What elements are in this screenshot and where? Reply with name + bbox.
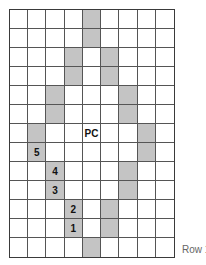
grid-cell	[46, 48, 64, 67]
shaded-cell	[65, 67, 83, 86]
grid-cell	[28, 238, 46, 257]
grid-cell-5: 5	[28, 143, 46, 162]
shaded-cell	[65, 48, 83, 67]
grid-cell	[10, 86, 28, 105]
grid-cell	[101, 105, 119, 124]
grid-cell	[46, 143, 64, 162]
shaded-cell	[83, 29, 101, 48]
grid-cell	[28, 200, 46, 219]
grid-cell	[28, 10, 46, 29]
grid-cell	[138, 200, 156, 219]
grid-cell	[10, 124, 28, 143]
grid-cell	[65, 86, 83, 105]
grid-cell	[101, 162, 119, 181]
grid-cell	[28, 67, 46, 86]
grid-cell	[10, 105, 28, 124]
shaded-cell	[46, 105, 64, 124]
grid-cell	[119, 10, 137, 29]
grid-cell	[156, 48, 174, 67]
grid-cell	[101, 29, 119, 48]
grid-cell	[46, 219, 64, 238]
grid-cell	[156, 124, 174, 143]
grid-cell	[156, 29, 174, 48]
grid-cell	[138, 10, 156, 29]
grid-cell	[10, 48, 28, 67]
grid-cell	[119, 48, 137, 67]
grid-cell	[46, 10, 64, 29]
grid-cell	[138, 181, 156, 200]
grid-cell	[46, 67, 64, 86]
grid-cell	[65, 124, 83, 143]
grid-cell	[156, 219, 174, 238]
grid-cell-2: 2	[65, 200, 83, 219]
grid-cell	[10, 238, 28, 257]
grid-cell	[83, 105, 101, 124]
seating-grid: PC54321	[9, 9, 175, 258]
grid-cell	[28, 181, 46, 200]
grid-cell	[119, 143, 137, 162]
grid-cell	[156, 181, 174, 200]
shaded-cell	[101, 67, 119, 86]
grid-cell	[65, 29, 83, 48]
grid-cell	[83, 86, 101, 105]
grid-cell	[83, 219, 101, 238]
grid-cell	[65, 181, 83, 200]
grid-cell	[65, 105, 83, 124]
grid-cell	[156, 238, 174, 257]
grid-cell	[10, 67, 28, 86]
grid-cell	[65, 10, 83, 29]
grid-cell	[138, 67, 156, 86]
grid-cell	[83, 48, 101, 67]
grid-cell	[10, 143, 28, 162]
grid-cell	[119, 238, 137, 257]
grid-cell	[138, 219, 156, 238]
grid-cell	[46, 124, 64, 143]
grid-cell	[119, 219, 137, 238]
grid-cell	[10, 10, 28, 29]
grid-cell	[46, 200, 64, 219]
grid-cell-3: 3	[46, 181, 64, 200]
shaded-cell	[119, 162, 137, 181]
shaded-cell	[138, 124, 156, 143]
grid-cell	[10, 29, 28, 48]
grid-cell	[101, 181, 119, 200]
row-1-label: Row 1	[182, 244, 206, 255]
grid-cell	[119, 124, 137, 143]
grid-cell	[101, 124, 119, 143]
shaded-cell	[28, 124, 46, 143]
grid-cell	[138, 86, 156, 105]
grid-cell-pc: PC	[83, 124, 101, 143]
grid-cell	[46, 29, 64, 48]
shaded-cell	[101, 48, 119, 67]
grid-cell	[156, 162, 174, 181]
grid-cell	[156, 86, 174, 105]
grid-cell	[83, 181, 101, 200]
grid-cell	[65, 143, 83, 162]
grid-cell-4: 4	[46, 162, 64, 181]
grid-cell	[10, 181, 28, 200]
grid-cell	[119, 200, 137, 219]
grid-cell	[28, 48, 46, 67]
grid-cell	[83, 162, 101, 181]
grid-cell	[138, 238, 156, 257]
grid-cell	[119, 67, 137, 86]
shaded-cell	[46, 86, 64, 105]
grid-cell	[138, 29, 156, 48]
grid-cell	[28, 105, 46, 124]
grid-cell	[83, 143, 101, 162]
shaded-cell	[119, 181, 137, 200]
grid-cell	[65, 238, 83, 257]
shaded-cell	[101, 219, 119, 238]
grid-cell	[156, 105, 174, 124]
grid-cell-1: 1	[65, 219, 83, 238]
grid-cell	[156, 10, 174, 29]
grid-cell	[28, 86, 46, 105]
grid-cell	[10, 219, 28, 238]
grid-cell	[156, 143, 174, 162]
shaded-cell	[83, 10, 101, 29]
grid-cell	[156, 67, 174, 86]
grid-cell	[138, 105, 156, 124]
shaded-cell	[119, 86, 137, 105]
grid-cell	[28, 29, 46, 48]
shaded-cell	[138, 143, 156, 162]
